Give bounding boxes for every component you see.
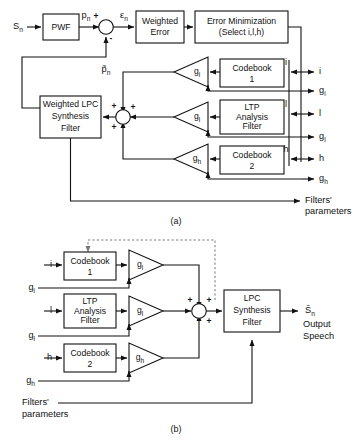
sign-plus-exc-a-2: + [131,102,136,112]
block-ltp-b-label-2: Analysis [74,306,106,316]
block-diagram-svg: Sn PWF pn + - εn Weighted Error Error M [0,0,353,445]
gain-triangle-gh-a [174,144,208,174]
input-label-i-b: i [50,259,52,269]
output-label-l: l [319,108,321,118]
figure-root: Sn PWF pn + - εn Weighted Error Error M [0,0,353,445]
block-ltp-a-label-2: Analysis [236,112,268,122]
input-label-h-b: h [47,352,52,362]
sign-plus-exc-b-2: + [207,295,212,305]
wire-gi-b-to-sum [163,265,199,304]
summing-junction-error [99,20,114,35]
diagram-b-group: i Codebook 1 gi gi l LTP Analysis Filter… [22,240,334,434]
gain-triangle-gi-b [129,250,163,280]
sign-plus-error-top: + [94,11,99,21]
input-label-gi-b: gi [28,282,35,293]
label-epsilon-n: εn [120,10,128,21]
summing-junction-excitation-b [192,304,207,319]
block-ltp-b-label-1: LTP [82,296,97,306]
block-codebook-1-a-label-1: Codebook [232,63,272,73]
block-weighted-error-label-1: Weighted [142,16,178,26]
block-weighted-lpc-a-label-2: Synthesis [52,111,89,121]
output-label-filters-params-a-1: Filters' [305,195,332,205]
gain-triangle-gh-b [129,343,163,373]
output-label-h: h [319,153,324,163]
block-codebook-1-a-label-2: 1 [250,74,255,84]
wire-errmin-index-bus [288,27,301,162]
sign-minus-error-bottom: - [110,33,113,43]
caption-b: (b) [171,424,182,434]
input-label-filters-params-b-2: parameters [22,409,69,419]
gain-triangle-gi-a [174,57,208,87]
block-codebook-2-a-label-2: 2 [250,161,255,171]
gain-triangle-gl-a [174,102,208,132]
summing-junction-excitation-a [116,110,131,125]
block-ltp-a-label-3: Filter [242,121,261,131]
sign-plus-exc-a-1: + [112,101,117,111]
input-label-l-b: l [50,305,52,315]
block-weighted-lpc-a-label-3: Filter [61,123,80,133]
output-label-gl: gl [319,131,326,142]
input-label-gh-b: gh [26,375,35,386]
output-label-filters-params-a-2: parameters [305,206,352,216]
block-codebook-1-b-label-1: Codebook [70,256,110,266]
output-label-i: i [319,66,321,76]
output-label-gi: gi [319,85,326,96]
label-index-l: l [285,99,287,109]
label-phat-n: p̃n [102,64,111,75]
sign-plus-exc-b-1: + [188,295,193,305]
output-label-speech-b: Speech [303,331,334,341]
block-pwf-label: PWF [51,22,70,32]
caption-a: (a) [171,216,182,226]
diagram-a-group: Sn PWF pn + - εn Weighted Error Error M [13,10,352,226]
block-lpc-synthesis-b-label-2: Synthesis [233,305,270,315]
block-ltp-a-label-1: LTP [244,102,259,112]
sign-plus-exc-b-3: + [207,316,212,326]
output-label-output-b: Output [303,319,331,329]
label-pn: pn [82,10,91,21]
output-label-shat-b: Ŝn [305,305,315,316]
block-weighted-error-label-2: Error [150,27,169,37]
gain-triangle-gl-b [129,296,163,326]
wire-gh-b-to-sum [163,319,199,358]
block-lpc-synthesis-b-label-1: LPC [244,293,261,303]
wire-gh-out-to-sum-a [123,126,174,159]
block-codebook-2-b-label-2: 2 [88,359,93,369]
block-codebook-1-b-label-2: 1 [88,267,93,277]
block-ltp-b-label-3: Filter [80,315,99,325]
input-label-filters-params-b-1: Filters' [22,397,49,407]
block-error-minimization-label-2: (Select i,l,h) [219,27,265,37]
label-index-i: i [285,57,287,67]
label-input-speech: Sn [13,21,23,32]
block-error-minimization-label-1: Error Minimization [207,16,276,26]
block-lpc-synthesis-b-label-3: Filter [242,317,261,327]
sign-plus-exc-a-3: + [112,122,117,132]
block-codebook-2-b-label-1: Codebook [70,348,110,358]
output-label-gh: gh [319,173,328,184]
block-weighted-lpc-a-label-1: Weighted LPC [43,99,98,109]
input-label-gl-b: gl [28,330,35,341]
block-codebook-2-a-label-1: Codebook [232,150,272,160]
